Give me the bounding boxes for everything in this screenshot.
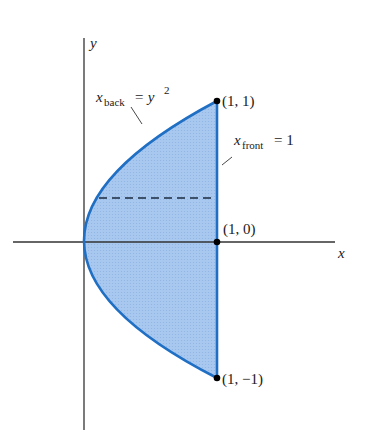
front-line-label: x front = 1 xyxy=(233,132,294,151)
svg-text:back: back xyxy=(104,96,125,108)
svg-text:= 1: = 1 xyxy=(274,132,294,148)
svg-text:front: front xyxy=(242,139,263,151)
back-curve-label: x back = y 2 xyxy=(95,84,170,108)
back-leader-line xyxy=(131,107,142,124)
point-label-1-neg1: (1, −1) xyxy=(222,371,263,388)
point-1-neg1 xyxy=(214,375,221,382)
region-diagram: (1, 1) (1, 0) (1, −1) x y x back = y 2 x… xyxy=(0,0,371,442)
point-label-1-1: (1, 1) xyxy=(222,93,255,110)
x-axis-label: x xyxy=(337,245,345,261)
svg-text:= y: = y xyxy=(134,89,155,105)
point-label-1-0: (1, 0) xyxy=(223,221,256,238)
point-1-1 xyxy=(214,98,221,105)
svg-text:2: 2 xyxy=(164,84,170,96)
svg-text:x: x xyxy=(95,89,103,105)
svg-text:x: x xyxy=(233,132,241,148)
point-1-0 xyxy=(214,239,221,246)
y-axis-label: y xyxy=(88,35,97,51)
front-leader-line xyxy=(222,157,232,165)
